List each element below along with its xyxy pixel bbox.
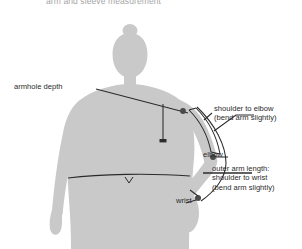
armhole-depth-text: armhole depth bbox=[14, 82, 63, 91]
outer-arm-line2: shoulder to wrist bbox=[212, 173, 274, 182]
elbow-text: elbow bbox=[203, 150, 223, 159]
label-shoulder-to-elbow: shoulder to elbow (bend arm slightly) bbox=[214, 104, 276, 123]
shoulder-to-elbow-line2: (bend arm slightly) bbox=[214, 113, 276, 122]
left-hand-shape bbox=[50, 210, 63, 235]
armhole-depth-bottom-cap bbox=[160, 139, 167, 142]
body-figure-svg bbox=[0, 0, 302, 249]
measurement-diagram: arm and sleeve measurement bbox=[0, 0, 302, 249]
body-silhouette bbox=[50, 24, 218, 249]
head-shape bbox=[113, 33, 148, 84]
label-outer-arm-length: outer arm length: shoulder to wrist (ben… bbox=[212, 164, 274, 192]
wrist-text: wrist bbox=[176, 196, 192, 205]
outer-arm-line1: outer arm length: bbox=[212, 164, 274, 173]
torso-shape bbox=[66, 84, 195, 249]
outer-arm-line3: (bend arm slightly) bbox=[212, 183, 274, 192]
label-wrist: wrist bbox=[176, 196, 192, 205]
shoulder-to-elbow-line1: shoulder to elbow bbox=[214, 104, 276, 113]
shoulder-point-marker bbox=[180, 108, 186, 114]
label-elbow: elbow bbox=[203, 150, 223, 159]
label-armhole-depth: armhole depth bbox=[14, 82, 63, 91]
